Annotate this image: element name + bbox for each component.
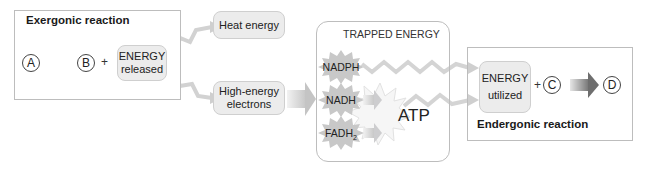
fadh-text: FADH: [325, 127, 353, 139]
fadh-subscript: 2: [353, 134, 357, 141]
energy-utilized-line1: ENERGY: [482, 72, 528, 85]
atp-label: ATP: [398, 106, 430, 126]
energy-released-line2: released: [119, 63, 165, 76]
high-energy-electrons-box: High-energy electrons: [213, 81, 285, 115]
molecule-d: D: [603, 76, 621, 94]
energy-utilized-line2: utilized: [482, 89, 528, 102]
electrons-line1: High-energy: [219, 85, 279, 98]
trapped-energy-title: TRAPPED ENERGY: [343, 28, 440, 40]
endergonic-title: Endergonic reaction: [477, 118, 588, 130]
molecule-a: A: [22, 54, 40, 72]
arrow-to-trapped: [287, 82, 316, 116]
electrons-line2: electrons: [219, 98, 279, 111]
energy-released-line1: ENERGY: [119, 50, 165, 63]
heat-energy-label: Heat energy: [219, 19, 279, 32]
heat-energy-box: Heat energy: [213, 11, 285, 39]
molecule-b: B: [77, 54, 95, 72]
nadh-label: NADH: [320, 94, 362, 106]
molecule-c: C: [543, 76, 561, 94]
plus-sign: +: [101, 55, 108, 69]
fadh2-label: FADH2: [320, 127, 362, 141]
plus-sign-endergonic: +: [534, 78, 541, 92]
energy-utilized-box: ENERGY utilized: [479, 61, 531, 113]
energy-released-box: ENERGY released: [117, 45, 167, 81]
nadph-label: NADPH: [320, 61, 362, 73]
exergonic-title: Exergonic reaction: [26, 14, 130, 26]
